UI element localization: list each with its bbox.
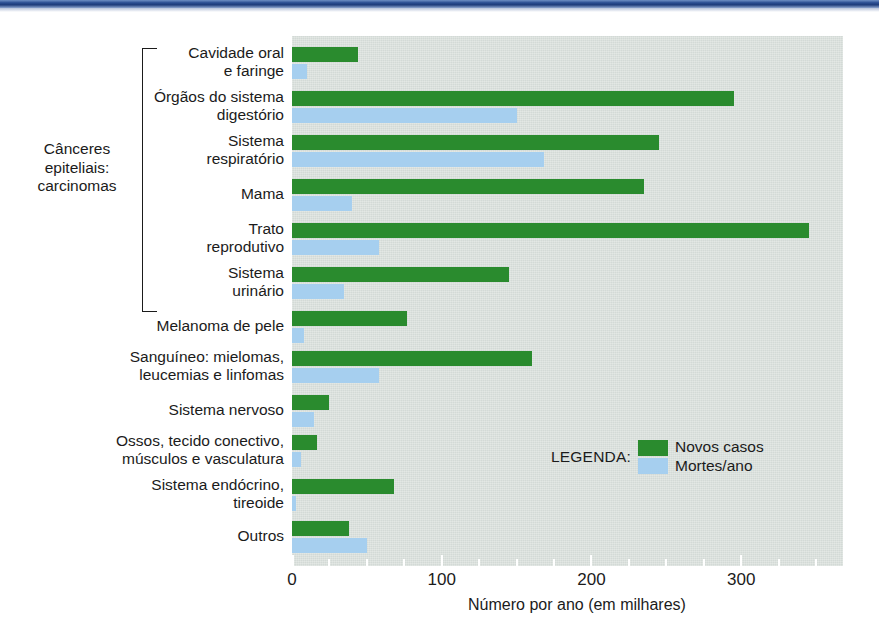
x-axis-minor-tick <box>516 559 518 566</box>
bar-novos-casos <box>292 311 407 326</box>
bar-mortes-ano <box>292 196 352 211</box>
x-axis-minor-tick <box>628 559 630 566</box>
x-axis-minor-tick <box>366 559 368 566</box>
bar-mortes-ano <box>292 496 296 511</box>
epithelial-group-label: Cânceres epiteliais: carcinomas <box>18 140 136 196</box>
x-axis-minor-tick <box>778 559 780 566</box>
x-axis-minor-tick <box>703 559 705 566</box>
legend-label-mortes-ano: Mortes/ano <box>675 457 764 475</box>
legend-title: LEGENDA: <box>551 448 631 466</box>
bar-novos-casos <box>292 267 509 282</box>
x-axis-minor-tick <box>815 559 817 566</box>
bar-novos-casos <box>292 47 358 62</box>
x-axis-minor-tick <box>665 559 667 566</box>
x-axis-minor-tick <box>403 559 405 566</box>
category-label: Sistema nervoso <box>0 401 292 420</box>
bar-mortes-ano <box>292 64 307 79</box>
x-axis-tick-label: 200 <box>577 570 605 590</box>
bar-novos-casos <box>292 91 734 106</box>
legend-swatch-novos-casos <box>638 440 668 456</box>
x-axis-title: Número por ano (em milhares) <box>0 596 879 614</box>
category-label: Sistema endócrino, tireoide <box>0 476 292 513</box>
bar-mortes-ano <box>292 412 314 427</box>
x-axis-tick-label: 300 <box>727 570 755 590</box>
bar-novos-casos <box>292 435 317 450</box>
category-label: Outros <box>0 527 292 546</box>
bar-mortes-ano <box>292 538 367 553</box>
bar-mortes-ano <box>292 368 379 383</box>
bar-novos-casos <box>292 223 809 238</box>
category-label: Melanoma de pele <box>0 317 292 336</box>
category-label: Sanguíneo: mielomas, leucemias e linfoma… <box>0 348 292 385</box>
x-axis-tick-label: 100 <box>428 570 456 590</box>
bar-novos-casos <box>292 179 644 194</box>
category-label: Ossos, tecido conectivo, músculos e vasc… <box>0 432 292 469</box>
bar-novos-casos <box>292 395 329 410</box>
legend-labels: Novos casos Mortes/ano <box>675 438 764 475</box>
x-axis-minor-tick <box>553 559 555 566</box>
bar-mortes-ano <box>292 108 517 123</box>
x-axis-major-tick <box>292 555 294 566</box>
bar-mortes-ano <box>292 284 344 299</box>
legend-swatches <box>638 440 668 474</box>
legend-label-novos-casos: Novos casos <box>675 438 764 456</box>
plot-area <box>292 36 843 566</box>
x-axis-tick-label: 0 <box>287 570 296 590</box>
x-axis-title-text: Número por ano (em milhares) <box>468 596 686 613</box>
x-axis-major-tick <box>590 555 592 566</box>
chart-legend: LEGENDA: Novos casos Mortes/ano <box>551 438 764 475</box>
x-axis-minor-tick <box>328 559 330 566</box>
bar-mortes-ano <box>292 152 544 167</box>
bar-chart-figure: Cavidade oral e faringeÓrgãos do sistema… <box>0 0 879 640</box>
bar-novos-casos <box>292 135 659 150</box>
x-axis-major-tick <box>441 555 443 566</box>
bar-mortes-ano <box>292 452 301 467</box>
bar-novos-casos <box>292 479 394 494</box>
bar-mortes-ano <box>292 328 304 343</box>
bar-novos-casos <box>292 351 532 366</box>
legend-swatch-mortes-ano <box>638 458 668 474</box>
bar-mortes-ano <box>292 240 379 255</box>
bar-novos-casos <box>292 521 349 536</box>
x-axis-major-tick <box>740 555 742 566</box>
epithelial-group-bracket <box>142 48 157 312</box>
x-axis-minor-tick <box>478 559 480 566</box>
